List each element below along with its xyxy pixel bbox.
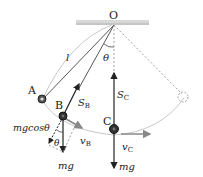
- tension-B-arrow: [63, 84, 79, 116]
- label-theta-B: θ: [54, 138, 60, 148]
- label-vB: vB: [80, 135, 91, 148]
- label-theta: θ: [103, 52, 109, 63]
- angle-arc-B: [57, 130, 63, 132]
- pendulum-diagram: O l θ A B C SB SC mgcosθ θ vB vC mg mg: [0, 0, 203, 177]
- right-string-dashed: [114, 25, 182, 94]
- angle-arc: [104, 44, 114, 47]
- label-B: B: [55, 99, 63, 112]
- label-l: l: [66, 52, 69, 63]
- label-SB: SB: [78, 97, 90, 110]
- label-vC: vC: [122, 141, 133, 154]
- label-A: A: [27, 84, 37, 97]
- label-O: O: [109, 9, 118, 22]
- bob-ghost: [178, 92, 188, 102]
- label-mgcos: mgcosθ: [13, 122, 50, 133]
- label-SC: SC: [117, 89, 129, 102]
- label-mg-C: mg: [119, 161, 135, 172]
- label-mg-B: mg: [58, 160, 74, 171]
- label-C: C: [103, 115, 111, 128]
